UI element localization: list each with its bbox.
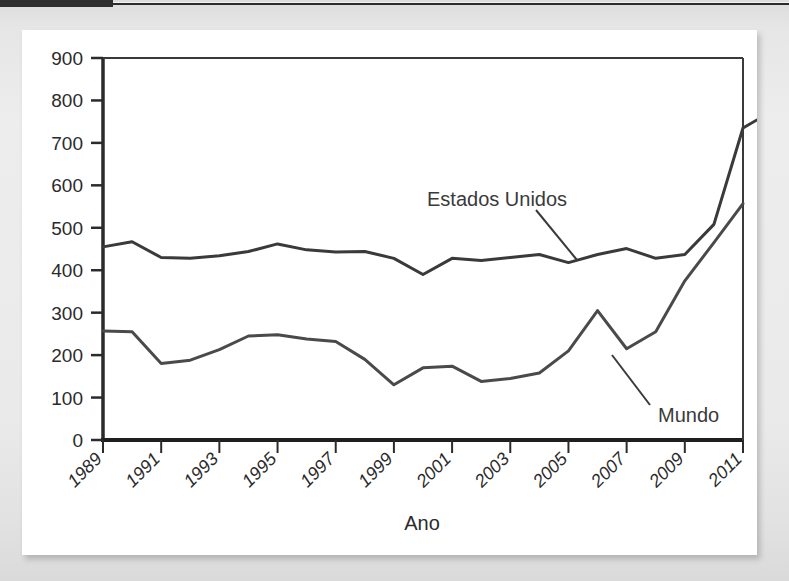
series-label-mundo: Mundo [658,404,719,426]
annotation-leaders [536,210,650,405]
y-tick-label: 100 [51,388,83,409]
mundo-leader-line [612,355,650,405]
x-tick-label: 1993 [180,449,222,491]
x-tick-label: 2009 [644,449,687,492]
y-tick-label: 0 [72,430,83,451]
y-axis: 0100200300400500600700800900 [51,48,103,451]
x-tick-label: 1989 [63,449,105,491]
scan-edge-artifact [0,0,113,7]
y-tick-label: 300 [51,303,83,324]
y-tick-label: 200 [51,345,83,366]
x-tick-label: 2011 [704,449,746,491]
x-axis: 1989199119931995199719992001200320052007… [63,440,745,492]
x-tick-label: 1995 [238,448,281,491]
line-chart: 0100200300400500600700800900 19891991199… [22,30,757,555]
x-tick-label: 2001 [412,449,455,492]
y-tick-label: 900 [51,48,83,69]
y-tick-label: 600 [51,175,83,196]
data-series-group [103,111,757,385]
x-axis-title: Ano [404,512,440,534]
y-tick-label: 400 [51,260,83,281]
x-tick-label: 1991 [122,449,164,491]
x-tick-label: 1999 [354,449,396,491]
series-line-mundo [103,204,743,385]
x-tick-label: 2005 [528,448,572,492]
plot-frame [101,58,743,440]
x-tick-label: 2007 [586,448,630,492]
y-tick-label: 800 [51,90,83,111]
x-tick-label: 1997 [296,448,339,491]
page-top-rule [113,2,789,5]
figure-panel: 0100200300400500600700800900 19891991199… [22,30,757,555]
x-tick-label: 2003 [470,449,513,492]
y-tick-label: 700 [51,133,83,154]
y-tick-label: 500 [51,218,83,239]
series-label-estados-unidos: Estados Unidos [427,188,567,210]
estados-unidos-leader-line [536,210,577,260]
